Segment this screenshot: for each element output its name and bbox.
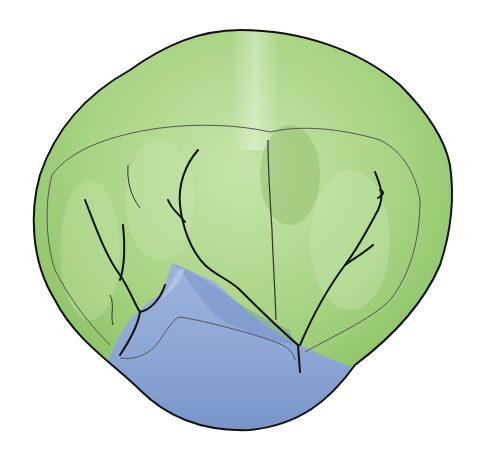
illustration-canvas xyxy=(0,0,483,470)
tooth-illustration xyxy=(0,0,483,470)
